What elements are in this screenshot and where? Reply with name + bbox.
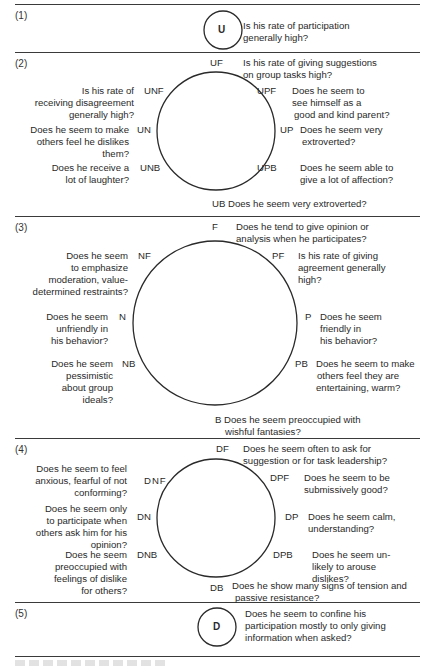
code-dn: DN	[137, 511, 151, 523]
code-db: DB	[210, 582, 223, 594]
question-b: B Does he seem preoccupied with wishful …	[215, 414, 361, 438]
question-pb: Does he seem to make others feel they ar…	[316, 358, 415, 394]
question-upf: Does he seem to see himself as a good an…	[292, 85, 389, 121]
code-upf: UPF	[257, 85, 276, 97]
code-pb: PB	[295, 358, 308, 370]
code-uf: UF	[210, 57, 223, 69]
code-dpb: DPB	[273, 549, 293, 561]
question-unb: Does he receive a lot of laughter?	[52, 162, 129, 186]
code-n: N	[119, 311, 126, 323]
code-upb: UPB	[257, 162, 277, 174]
code-dnf: DNF	[144, 475, 167, 487]
section-4-number: (4)	[15, 444, 27, 455]
circle-section-3	[133, 241, 297, 405]
code-nb: NB	[122, 358, 135, 370]
code-un: UN	[137, 124, 151, 136]
code-dnb: DNB	[137, 549, 157, 561]
section-3-number: (3)	[15, 222, 27, 233]
question-dpf: Does he seem to be submissively good?	[304, 472, 390, 496]
question-dn: Does he seem only to participate when ot…	[36, 503, 127, 551]
code-df: DF	[216, 443, 229, 455]
section-5-number: (5)	[15, 608, 27, 619]
question-df: Does he seem often to ask for suggestion…	[243, 443, 387, 467]
code-dpf: DPF	[270, 472, 289, 484]
question-un: Does he seem to make others feel he disl…	[30, 124, 129, 160]
question-dp: Does he seem calm, understanding?	[308, 511, 395, 535]
question-nb: Does he seem pessimistic about group ide…	[51, 358, 113, 406]
code-pf: PF	[272, 250, 284, 262]
section-2-number: (2)	[15, 58, 27, 69]
question-f: Does he tend to give opinion or analysis…	[236, 221, 369, 245]
code-nf: NF	[138, 250, 151, 262]
question-dnb: Does he seem preoccupied with feelings o…	[54, 549, 127, 597]
section-1-number: (1)	[15, 10, 27, 21]
divider-bottom	[15, 656, 420, 657]
question-uf: Is his rate of giving suggestions on gro…	[243, 57, 377, 81]
code-b: B	[215, 414, 221, 425]
code-up: UP	[280, 124, 293, 136]
question-unf: Is his rate of receiving disagreement ge…	[35, 85, 134, 121]
question-db: Does he show many signs of tension and p…	[232, 580, 407, 604]
circle-u-label: U	[218, 24, 225, 36]
question-upb: Does he seem able to give a lot of affec…	[300, 162, 393, 186]
section-5-question: Does he seem to confine his participatio…	[245, 608, 386, 644]
question-ub: UB Does he seem very extroverted?	[212, 198, 367, 210]
question-p: Does he seem friendly in his behavior?	[320, 311, 382, 347]
code-f: F	[212, 221, 218, 233]
question-n: Does he seem unfriendly in his behavior?	[46, 311, 108, 347]
question-nf: Does he seem to emphasize moderation, va…	[33, 250, 128, 298]
code-ub: UB	[212, 198, 225, 209]
section-1-question: Is his rate of participation generally h…	[243, 20, 350, 44]
question-pf: Is his rate of giving agreement generall…	[298, 250, 385, 286]
question-dnf: Does he seem to feel anxious, fearful of…	[35, 463, 127, 499]
question-up: Does he seem very extroverted?	[300, 124, 383, 148]
divider-1-2	[15, 52, 420, 53]
divider-top	[15, 4, 420, 5]
divider-3-4	[15, 438, 420, 439]
clipped-caption	[15, 660, 165, 666]
code-unf: UNF	[144, 85, 164, 97]
circle-d-label: D	[213, 621, 220, 633]
code-dp: DP	[285, 511, 298, 523]
circle-section-4	[157, 459, 275, 577]
code-unb: UNB	[140, 162, 160, 174]
divider-2-3	[15, 216, 420, 217]
code-p: P	[305, 311, 311, 323]
